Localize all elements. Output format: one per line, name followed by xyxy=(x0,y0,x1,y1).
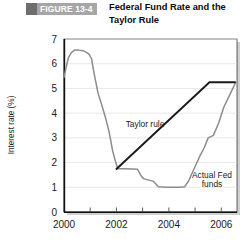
figure-badge: FIGURE 13-4 xyxy=(26,3,97,15)
annotation-taylor-rule: Taylor rule xyxy=(126,119,165,129)
figure-header: FIGURE 13-4 Federal Fund Rate and the Ta… xyxy=(0,0,250,34)
y-tick-label: 1 xyxy=(51,182,57,193)
figure-title-line-2: Taylor Rule xyxy=(109,14,245,27)
x-tick-label: 2000 xyxy=(53,219,76,230)
figure-title: Federal Fund Rate and the Taylor Rule xyxy=(109,1,245,26)
y-tick-label: 6 xyxy=(51,58,57,69)
figure-title-line-1: Federal Fund Rate and the xyxy=(109,1,245,14)
chart-container: 01234567 2000200220042006 Interest rate … xyxy=(0,32,250,243)
y-tick-label: 0 xyxy=(51,207,57,218)
annotation-actual-fed-funds-line-2: funds xyxy=(202,179,223,189)
y-axis-title: Interest rate (%) xyxy=(7,95,16,154)
y-tick-label: 5 xyxy=(51,83,57,94)
y-axis-tick-labels: 01234567 xyxy=(51,34,57,218)
y-tick-label: 3 xyxy=(51,132,57,143)
y-tick-label: 7 xyxy=(51,34,57,45)
x-axis-tick-labels: 2000200220042006 xyxy=(53,219,233,230)
x-tick-label: 2002 xyxy=(105,219,128,230)
x-tick-label: 2006 xyxy=(210,219,233,230)
y-tick-label: 4 xyxy=(51,108,57,119)
x-tick-label: 2004 xyxy=(158,219,181,230)
figure-badge-label: FIGURE 13-4 xyxy=(37,3,97,15)
line-chart: 01234567 2000200220042006 Interest rate … xyxy=(0,32,250,243)
y-tick-label: 2 xyxy=(51,157,57,168)
figure-badge-block xyxy=(26,3,37,15)
